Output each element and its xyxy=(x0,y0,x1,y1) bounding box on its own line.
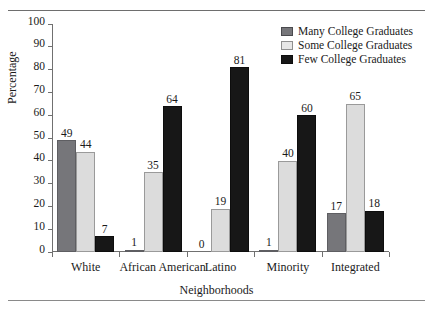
bar-value-label: 1 xyxy=(131,237,137,249)
y-tick-label: 20 xyxy=(34,198,46,210)
bar-group: 01981Latino xyxy=(187,24,254,252)
bar[interactable]: 17 xyxy=(327,213,346,252)
bar[interactable]: 60 xyxy=(297,115,316,252)
bar[interactable]: 35 xyxy=(144,172,163,252)
y-tick-label: 0 xyxy=(39,244,45,256)
y-tick-label: 50 xyxy=(34,130,46,142)
y-tick-label: 40 xyxy=(34,152,46,164)
bar-value-label: 17 xyxy=(331,201,343,213)
x-tick-mark xyxy=(119,252,120,257)
bar[interactable]: 1 xyxy=(259,250,278,252)
legend-label: Few College Graduates xyxy=(298,54,406,66)
legend-item[interactable]: Many College Graduates xyxy=(281,25,413,38)
legend-swatch-icon xyxy=(281,41,293,50)
bottom-divider-rule xyxy=(8,300,425,301)
y-tick-label: 70 xyxy=(34,84,46,96)
bar-group: 49447White xyxy=(52,24,119,252)
bar-value-label: 40 xyxy=(282,148,294,160)
x-axis-title: Neighborhoods xyxy=(0,283,433,298)
y-tick-label: 60 xyxy=(34,107,46,119)
bar[interactable]: 40 xyxy=(278,161,297,252)
bar[interactable]: 81 xyxy=(230,67,249,252)
bar[interactable]: 64 xyxy=(163,106,182,252)
y-tick-label: 100 xyxy=(28,16,45,28)
bar-value-label: 60 xyxy=(301,103,313,115)
x-tick-mark xyxy=(322,252,323,257)
bar-value-label: 7 xyxy=(102,224,108,236)
legend-label: Many College Graduates xyxy=(298,26,413,38)
bar-value-label: 19 xyxy=(215,196,227,208)
y-tick-label: 90 xyxy=(34,38,46,50)
bar-value-label: 81 xyxy=(234,55,246,67)
top-divider-rule xyxy=(8,10,425,11)
legend-swatch-icon xyxy=(281,27,293,36)
y-axis-title: Percentage xyxy=(6,51,18,104)
bar[interactable]: 19 xyxy=(211,209,230,252)
bar-value-label: 49 xyxy=(61,128,73,140)
y-tick-label: 30 xyxy=(34,175,46,187)
x-axis-label: White xyxy=(52,261,119,273)
legend-item[interactable]: Some College Graduates xyxy=(281,39,413,52)
bar-value-label: 0 xyxy=(199,239,205,251)
bar-value-label: 1 xyxy=(266,237,272,249)
bar-value-label: 18 xyxy=(369,198,381,210)
legend-swatch-icon xyxy=(281,55,293,64)
bar[interactable]: 18 xyxy=(365,211,384,252)
chart-legend: Many College GraduatesSome College Gradu… xyxy=(281,25,413,66)
bar-value-label: 44 xyxy=(80,139,92,151)
x-tick-mark xyxy=(187,252,188,257)
x-axis-label: Minority xyxy=(254,261,321,273)
x-axis-label: Integrated xyxy=(322,261,389,273)
bar-value-label: 64 xyxy=(166,94,178,106)
y-tick-label: 10 xyxy=(34,221,46,233)
x-tick-mark xyxy=(254,252,255,257)
bar[interactable]: 1 xyxy=(125,250,144,252)
bar[interactable]: 44 xyxy=(76,152,95,252)
bar-value-label: 65 xyxy=(350,91,362,103)
bar-group: 13564African American xyxy=(119,24,186,252)
x-axis-label: Latino xyxy=(187,261,254,273)
legend-label: Some College Graduates xyxy=(298,40,412,52)
x-tick-mark xyxy=(52,252,53,257)
x-tick-mark xyxy=(389,252,390,257)
legend-item[interactable]: Few College Graduates xyxy=(281,53,413,66)
bar[interactable]: 49 xyxy=(57,140,76,252)
y-tick-label: 80 xyxy=(34,61,46,73)
bar-value-label: 35 xyxy=(147,160,159,172)
bar[interactable]: 7 xyxy=(95,236,114,252)
x-axis-label: African American xyxy=(119,261,186,273)
bar[interactable]: 65 xyxy=(346,104,365,252)
